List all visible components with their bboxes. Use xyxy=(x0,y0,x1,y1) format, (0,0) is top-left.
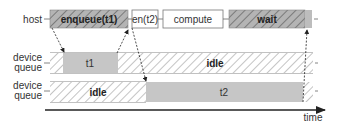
time-axis-label: time xyxy=(304,112,323,123)
t2-label: t2 xyxy=(220,87,229,98)
time-axis: time xyxy=(45,110,325,123)
t1-label: t1 xyxy=(86,58,95,69)
queue2-idle-label: idle xyxy=(89,87,107,98)
queue1-idle-label: idle xyxy=(206,58,224,69)
host-row-label: host xyxy=(23,14,42,25)
host-row: enqueue(t1) en(t2) compute wait xyxy=(50,10,318,28)
row-labels: host device queue device queue xyxy=(13,14,50,101)
wait-label: wait xyxy=(256,14,277,25)
device-queue-2-row: idle t2 xyxy=(50,82,318,102)
device-queue-1-label-line2: queue xyxy=(14,62,42,73)
queue2-post-idle xyxy=(303,82,313,102)
queue1-pre-idle xyxy=(50,53,63,73)
t1-to-host-arrow xyxy=(117,30,128,53)
compute-label: compute xyxy=(174,14,213,25)
enqueue-t2-label: en(t2) xyxy=(132,14,158,25)
device-queue-2-label-line2: queue xyxy=(14,90,42,101)
enqueue-t1-label: enqueue(t1) xyxy=(61,14,118,25)
wait-end-block xyxy=(305,10,312,28)
device-queue-1-row: t1 idle xyxy=(50,53,318,73)
timeline-diagram: host device queue device queue enqueue(t… xyxy=(0,0,340,127)
enqueue-to-t1-arrow xyxy=(52,28,64,52)
